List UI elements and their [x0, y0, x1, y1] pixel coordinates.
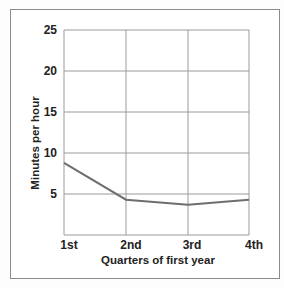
x-tick-1st: 1st [60, 238, 77, 252]
y-tick-15: 15 [44, 105, 58, 119]
x-tick-4th: 4th [245, 238, 263, 252]
x-tick-3rd: 3rd [183, 238, 202, 252]
data-line [64, 163, 249, 205]
y-tick-labels: 25 20 15 10 5 [44, 23, 58, 201]
y-tick-10: 10 [44, 146, 58, 160]
x-axis-title: Quarters of first year [101, 254, 215, 266]
y-tick-20: 20 [44, 64, 58, 78]
line-chart: 25 20 15 10 5 1st 2nd 3rd 4th Quarters o… [0, 0, 284, 288]
y-tick-25: 25 [44, 23, 58, 37]
x-tick-2nd: 2nd [120, 238, 141, 252]
grid [64, 30, 249, 235]
y-tick-5: 5 [50, 187, 57, 201]
x-tick-labels: 1st 2nd 3rd 4th [60, 238, 263, 252]
y-axis-title: Minutes per hour [29, 96, 41, 190]
